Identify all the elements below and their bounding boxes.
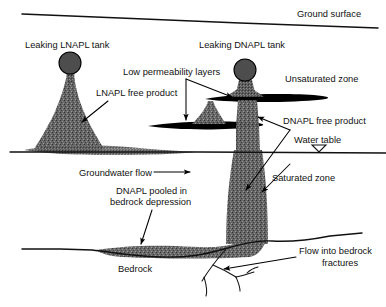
- label-dnapl-pooled-line2: bedrock depression: [110, 197, 191, 207]
- label-low-permeability-layers: Low permeability layers: [123, 67, 220, 77]
- dnapl-branch-left: [192, 101, 226, 124]
- lnapl-water-table-smear: [24, 145, 196, 155]
- dnapl-saturated-column: [226, 150, 268, 244]
- label-groundwater-flow: Groundwater flow: [79, 168, 152, 178]
- label-dnapl-free-product: DNAPL free product: [283, 116, 366, 126]
- label-saturated-zone: Saturated zone: [272, 173, 335, 183]
- dnapl-bedrock-pool: [96, 241, 266, 259]
- diagram-canvas: Ground surface Leaking LNAPL tank Leakin…: [0, 0, 386, 307]
- label-lnapl-free-product: LNAPL free product: [96, 88, 178, 98]
- leaking-dnapl-tank-icon: [234, 59, 256, 81]
- napl-cross-section-diagram: Ground surface Leaking LNAPL tank Leakin…: [0, 0, 386, 307]
- dnapl-spread-upper-lens: [226, 86, 264, 97]
- label-flow-into-bedrock-line1: Flow into bedrock: [299, 246, 372, 256]
- arrow-low-perm-to-upper-lens: [186, 79, 232, 97]
- label-unsaturated-zone: Unsaturated zone: [285, 74, 358, 84]
- label-water-table: Water table: [294, 135, 341, 145]
- leaking-lnapl-tank-icon: [59, 52, 81, 74]
- dnapl-plume-stem: [236, 100, 260, 150]
- label-leaking-dnapl-tank: Leaking DNAPL tank: [199, 40, 285, 50]
- low-permeability-layer-upper: [205, 94, 328, 102]
- arrow-lnapl-free-product: [82, 101, 108, 122]
- label-ground-surface: Ground surface: [297, 9, 361, 19]
- arrow-dnapl-pooled: [141, 210, 152, 244]
- label-flow-into-bedrock-line2: fractures: [322, 258, 359, 268]
- label-dnapl-pooled-line1: DNAPL pooled in: [116, 186, 187, 196]
- arrow-flow-into-bedrock: [224, 257, 296, 269]
- label-leaking-lnapl-tank: Leaking LNAPL tank: [25, 40, 110, 50]
- label-bedrock: Bedrock: [118, 264, 152, 274]
- water-table-triangle-icon: [312, 145, 326, 152]
